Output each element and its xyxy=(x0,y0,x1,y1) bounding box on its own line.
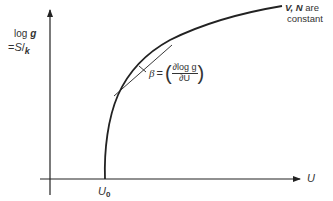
y-axis-label: log g xyxy=(14,29,36,39)
constant-vars: V, N xyxy=(285,2,303,13)
close-paren: ) xyxy=(198,63,205,83)
y-axis-label-g: g xyxy=(30,28,36,39)
ground-energy-symbol: U xyxy=(98,185,106,197)
beta-symbol: β xyxy=(149,68,154,79)
curve-annotation-line2: constant xyxy=(287,14,323,24)
entropy-symbol: S xyxy=(14,41,21,53)
curve-annotation: V, N are xyxy=(285,3,319,13)
slope-equals: = xyxy=(156,68,162,79)
y-axis-label-entropy: =S/k xyxy=(8,42,30,53)
are-text: are xyxy=(303,2,319,13)
x-axis-label: U xyxy=(307,173,315,184)
boltzmann-symbol: k xyxy=(25,46,30,56)
ground-energy-label: U0 xyxy=(98,186,110,197)
y-axis-label-log: log xyxy=(14,28,27,39)
slope-label: β = ( ∂log g ∂U ) xyxy=(149,63,204,84)
open-paren: ( xyxy=(165,63,172,83)
entropy-curve xyxy=(105,6,282,179)
subscript-zero: 0 xyxy=(106,190,110,199)
derivative-fraction: ∂log g ∂U xyxy=(172,63,198,84)
fraction-denominator: ∂U xyxy=(179,74,190,84)
diagram-canvas xyxy=(0,0,333,201)
